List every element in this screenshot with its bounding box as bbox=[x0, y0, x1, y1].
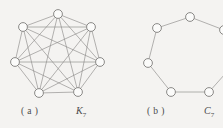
graph-figure: ( a ) K7 ( b ) C7 bbox=[0, 0, 223, 128]
panel-a-graph-label: K7 bbox=[76, 105, 86, 119]
cycle-graph-vertex bbox=[186, 13, 195, 22]
complete-graph-vertex bbox=[54, 10, 63, 19]
complete-graph-vertex bbox=[35, 89, 44, 98]
cycle-graph-vertex bbox=[153, 24, 162, 33]
panel-a-graph-subscript: 7 bbox=[83, 111, 87, 119]
panel-a-index-label: ( a ) bbox=[21, 106, 38, 116]
panel-b-graph-name: C bbox=[204, 105, 211, 116]
complete-graph-vertex bbox=[96, 58, 105, 67]
panel-b-graph-subscript: 7 bbox=[211, 111, 215, 119]
complete-graph-vertex bbox=[19, 23, 28, 32]
complete-graph-vertex bbox=[74, 88, 83, 97]
cycle-graph-vertex bbox=[205, 88, 214, 97]
complete-graph-vertex bbox=[87, 23, 96, 32]
figure-captions: ( a ) K7 ( b ) C7 bbox=[0, 103, 223, 128]
panel-a-graph-name: K bbox=[76, 105, 83, 116]
panel-b-index-label: ( b ) bbox=[147, 106, 165, 116]
cycle-graph-vertex bbox=[167, 88, 176, 97]
cycle-graph-vertex bbox=[144, 59, 153, 68]
complete-graph-vertex bbox=[11, 58, 20, 67]
panel-b-graph-label: C7 bbox=[204, 105, 214, 119]
